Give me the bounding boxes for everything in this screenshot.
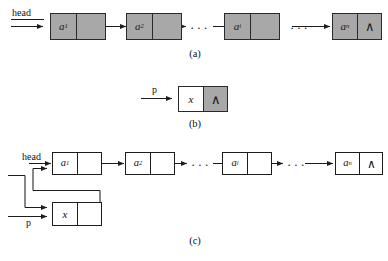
node-c-a1-data: a1 <box>53 153 78 174</box>
node-a2-link <box>153 14 181 39</box>
node-x-b: x ∧ <box>178 86 228 112</box>
caption-b: (b) <box>165 119 225 130</box>
node-c-a2-link <box>151 153 174 174</box>
node-c-x-data: x <box>53 203 78 225</box>
panel-b-p-label: p <box>152 85 157 95</box>
panel-c-p-label: p <box>26 218 31 228</box>
node-x-b-null: ∧ <box>204 87 227 111</box>
panel-c-ellipsis-2: ··· <box>287 158 307 171</box>
node-a1-data: a1 <box>51 14 77 39</box>
node-c-an-data: an <box>336 153 360 174</box>
node-x-b-data: x <box>179 87 204 111</box>
node-an: an ∧ <box>332 13 382 40</box>
figure-canvas: head a1 a2 ··· ai ··· an ∧ (a) p x ∧ (b) <box>0 0 388 261</box>
node-c-an: an ∧ <box>335 152 383 175</box>
node-a2-data: a2 <box>127 14 153 39</box>
node-an-data: an <box>333 14 358 39</box>
node-ai: ai <box>224 13 280 40</box>
panel-a-ellipsis-1: ··· <box>190 21 210 34</box>
node-c-a1-link <box>78 153 101 174</box>
caption-a: (a) <box>165 49 225 60</box>
node-ai-link <box>251 14 279 39</box>
node-c-ai: ai <box>222 152 272 175</box>
node-c-a1: a1 <box>52 152 102 175</box>
node-a1-link <box>77 14 105 39</box>
panel-c-head-label: head <box>22 152 41 162</box>
node-c-ai-data: ai <box>223 153 248 174</box>
panel-a-ellipsis-2: ··· <box>290 21 310 34</box>
node-c-x-link <box>78 203 101 225</box>
node-c-an-null: ∧ <box>360 153 382 174</box>
node-a2: a2 <box>126 13 182 40</box>
panel-a-head-label: head <box>12 8 31 18</box>
node-an-null: ∧ <box>358 14 381 39</box>
caption-c: (c) <box>165 236 225 247</box>
node-c-a2-data: a2 <box>126 153 151 174</box>
node-c-a2: a2 <box>125 152 175 175</box>
node-a1: a1 <box>50 13 106 40</box>
node-c-x: x <box>52 202 102 226</box>
node-ai-data: ai <box>225 14 251 39</box>
node-c-ai-link <box>248 153 271 174</box>
panel-c-ellipsis-1: ··· <box>191 158 211 171</box>
